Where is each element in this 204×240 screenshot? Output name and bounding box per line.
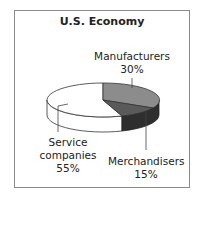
label-service: Service companies 55% <box>20 136 116 175</box>
label-manufacturers: Manufacturers 30% <box>92 50 172 76</box>
manufacturers-pct: 30% <box>92 63 172 76</box>
manufacturers-name: Manufacturers <box>92 50 172 63</box>
merchandisers-pct: 15% <box>108 168 184 181</box>
merchandisers-name: Merchandisers <box>108 155 184 168</box>
service-pct: 55% <box>20 162 116 175</box>
service-name: Service companies <box>20 136 116 162</box>
label-merchandisers: Merchandisers 15% <box>108 155 184 181</box>
